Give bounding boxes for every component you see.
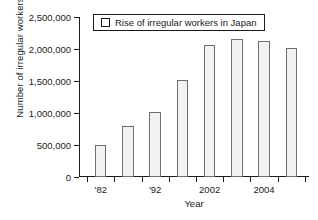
y-tick-mark [74, 17, 79, 18]
x-tick-mark [114, 177, 115, 182]
y-tick-label: 1,000,000 [29, 108, 71, 119]
bar [286, 48, 297, 177]
bar [95, 145, 106, 177]
y-tick-label: 500,000 [37, 140, 71, 151]
bar [231, 39, 242, 177]
y-tick-label: 0 [66, 172, 71, 183]
x-tick-label: '92 [149, 184, 161, 195]
x-tick-mark [87, 177, 88, 182]
x-tick-mark [223, 177, 224, 182]
bar [258, 41, 269, 177]
bar [122, 126, 133, 177]
y-tick-mark [74, 113, 79, 114]
x-tick-mark [278, 177, 279, 182]
x-tick-label: 2004 [254, 184, 275, 195]
y-tick-mark [74, 177, 79, 178]
y-tick-label: 1,500,000 [29, 76, 71, 87]
x-tick-mark [196, 177, 197, 182]
x-tick-mark [142, 177, 143, 182]
x-tick-label: '82 [95, 184, 107, 195]
y-axis-title: Number of irregular workers [14, 0, 25, 133]
y-tick-label: 2,500,000 [29, 12, 71, 23]
bar-chart: Number of irregular workers 0500,0001,00… [0, 0, 318, 220]
y-tick-mark [74, 49, 79, 50]
y-tick-mark [74, 81, 79, 82]
bar [149, 112, 160, 177]
legend-label: Rise of irregular workers in Japan [115, 17, 257, 28]
legend-swatch-icon [101, 18, 110, 27]
x-axis-title: Year [78, 198, 310, 209]
x-tick-mark [305, 177, 306, 182]
x-tick-mark [169, 177, 170, 182]
chart-legend: Rise of irregular workers in Japan [93, 14, 265, 31]
x-tick-label: 2002 [199, 184, 220, 195]
y-axis-line [79, 17, 80, 177]
plot-area: 0500,0001,000,0001,500,0002,000,0002,500… [79, 17, 309, 177]
bar [204, 45, 215, 177]
y-tick-mark [74, 145, 79, 146]
bar [177, 80, 188, 177]
x-tick-mark [250, 177, 251, 182]
y-tick-label: 2,000,000 [29, 44, 71, 55]
